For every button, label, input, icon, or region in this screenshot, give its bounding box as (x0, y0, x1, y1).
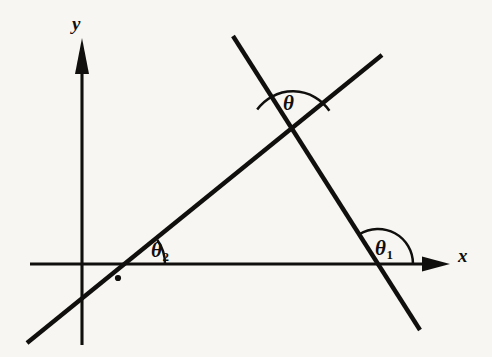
figure-canvas (0, 0, 492, 357)
theta-2-symbol: θ (151, 238, 162, 262)
point-marker-dot (115, 275, 121, 281)
theta-1-symbol: θ (375, 236, 386, 260)
geometry-figure: y x θ θ2 θ1 (0, 0, 492, 357)
x-axis-arrowhead-icon (422, 257, 450, 272)
theta-1-subscript: 1 (386, 247, 393, 262)
rising-line (27, 55, 382, 343)
theta-symbol: θ (283, 91, 294, 115)
y-axis-arrowhead-icon (75, 38, 89, 74)
theta-angle-label: θ (283, 93, 294, 116)
x-axis-label: x (458, 246, 468, 265)
theta-2-subscript: 2 (162, 249, 169, 264)
theta-1-angle-label: θ1 (375, 238, 393, 261)
y-axis-label: y (72, 14, 80, 33)
theta-2-angle-label: θ2 (151, 240, 169, 263)
falling-line (233, 36, 420, 330)
